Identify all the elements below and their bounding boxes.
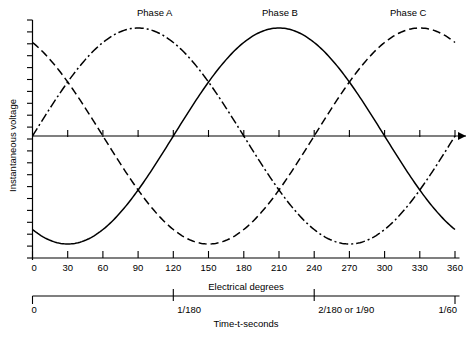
- x-axis-title: Electrical degrees: [208, 281, 284, 292]
- series-label-phase-b: Phase B: [262, 7, 298, 18]
- degree-tick-label: 90: [133, 262, 144, 273]
- degree-tick-label: 360: [447, 262, 463, 273]
- time-axis-title: Time-t-seconds: [213, 318, 278, 329]
- degree-tick-label: 180: [236, 262, 252, 273]
- degree-tick-label: 30: [62, 262, 73, 273]
- degree-tick-label: 0: [32, 262, 37, 273]
- degree-axis-ticks: [33, 251, 456, 258]
- x-axis-arrowhead: [458, 132, 466, 140]
- time-tick-label: 1/60: [439, 304, 458, 315]
- three-phase-voltage-waveform-figure: Phase A Phase B Phase C Instantaneous vo…: [0, 0, 475, 344]
- series-label-phase-a: Phase A: [137, 7, 173, 18]
- degree-tick-label: 300: [377, 262, 393, 273]
- degree-tick-label: 240: [306, 262, 322, 273]
- chart-canvas: Phase A Phase B Phase C Instantaneous vo…: [0, 0, 475, 344]
- series-label-phase-c: Phase C: [390, 7, 427, 18]
- time-tick-label: 1/180: [177, 304, 201, 315]
- degree-axis-tick-labels: 0306090120150180210240270300330360: [32, 262, 463, 273]
- degree-tick-label: 60: [98, 262, 109, 273]
- time-axis-tick-labels: 01/1802/180 or 1/901/60: [32, 304, 458, 315]
- degree-tick-label: 120: [165, 262, 181, 273]
- time-tick-label: 2/180 or 1/90: [318, 304, 374, 315]
- degree-tick-label: 150: [201, 262, 217, 273]
- time-tick-label: 0: [32, 304, 37, 315]
- y-axis-ticks: [27, 20, 33, 258]
- degree-tick-label: 330: [412, 262, 428, 273]
- degree-tick-label: 210: [271, 262, 287, 273]
- degree-tick-label: 270: [341, 262, 357, 273]
- y-axis-title: Instantaneous voltage: [7, 99, 18, 192]
